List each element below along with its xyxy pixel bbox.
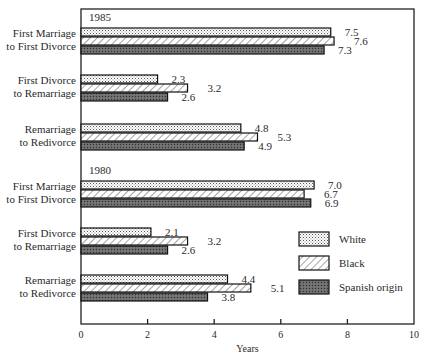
bar-group: 4.45.13.8: [81, 273, 285, 303]
category-label: to First Divorce: [6, 193, 76, 205]
bar-black: [81, 37, 334, 45]
panel-year-label: 1980: [89, 164, 112, 176]
category-label: to Remarriage: [13, 240, 76, 252]
bar-spanish-origin: [81, 293, 208, 301]
bar-group: 2.13.22.6: [81, 226, 221, 256]
bar-spanish-origin: [81, 93, 168, 101]
bar-value-label: 5.3: [277, 131, 291, 143]
bar-white: [81, 28, 331, 36]
bar-value-label: 7.3: [338, 44, 352, 56]
bar-value-label: 4.4: [242, 273, 256, 285]
bar-value-label: 4.9: [258, 140, 272, 152]
x-tick-label: 2: [145, 329, 150, 340]
category-label: to First Divorce: [6, 40, 76, 52]
bar-black: [81, 237, 188, 245]
category-label: First Marriage: [13, 27, 76, 39]
bar-spanish-origin: [81, 142, 244, 150]
bar-spanish-origin: [81, 46, 324, 54]
bar-value-label: 2.6: [182, 91, 196, 103]
bar-value-label: 7.6: [354, 35, 368, 47]
legend-swatch-black: [299, 256, 329, 270]
legend-label: Spanish origin: [339, 281, 403, 293]
category-label: First Marriage: [13, 180, 76, 192]
legend-swatch-white: [299, 232, 329, 246]
bar-white: [81, 228, 151, 236]
panel-year-label: 1985: [89, 11, 112, 23]
bar-white: [81, 275, 228, 283]
bar-value-label: 4.8: [255, 122, 269, 134]
x-tick-label: 6: [278, 329, 283, 340]
bar-value-label: 6.9: [325, 197, 339, 209]
bar-chart: 7.57.67.32.33.22.64.85.34.97.06.76.92.13…: [0, 0, 428, 358]
category-label: to Redivorce: [19, 287, 76, 299]
bar-value-label: 3.2: [208, 235, 222, 247]
bar-white: [81, 75, 158, 83]
bar-value-label: 2.1: [165, 226, 179, 238]
x-tick-label: 0: [79, 329, 84, 340]
legend-label: Black: [339, 257, 365, 269]
x-tick-label: 8: [345, 329, 350, 340]
x-tick-label: 10: [409, 329, 419, 340]
bar-value-label: 3.2: [208, 82, 222, 94]
category-label: to Remarriage: [13, 87, 76, 99]
bar-spanish-origin: [81, 246, 168, 254]
bar-white: [81, 124, 241, 132]
legend-swatch-spanish-origin: [299, 280, 329, 294]
legend: WhiteBlackSpanish origin: [299, 232, 403, 294]
bar-value-label: 3.8: [222, 291, 236, 303]
bar-value-label: 5.1: [271, 282, 285, 294]
x-axis-title: Years: [236, 343, 258, 354]
category-label: Remarriage: [25, 274, 76, 286]
bar-group: 7.57.67.3: [81, 26, 368, 56]
legend-label: White: [339, 233, 366, 245]
category-label: First Divorce: [18, 227, 76, 239]
bar-group: 7.06.76.9: [81, 179, 342, 209]
bar-group: 2.33.22.6: [81, 73, 221, 103]
bar-black: [81, 133, 257, 141]
bar-black: [81, 84, 188, 92]
category-label: Remarriage: [25, 123, 76, 135]
category-label: to Redivorce: [19, 136, 76, 148]
x-tick-label: 4: [212, 329, 217, 340]
bar-black: [81, 190, 304, 198]
bar-group: 4.85.34.9: [81, 122, 292, 152]
bar-spanish-origin: [81, 199, 311, 207]
bar-white: [81, 181, 314, 189]
bar-value-label: 2.6: [182, 244, 196, 256]
bar-value-label: 2.3: [172, 73, 186, 85]
category-label: First Divorce: [18, 74, 76, 86]
